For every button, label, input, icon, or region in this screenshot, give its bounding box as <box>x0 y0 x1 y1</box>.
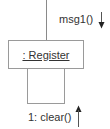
message-clear-label: 1: clear() <box>28 111 71 124</box>
message-msg1-label: msg1() <box>59 13 93 26</box>
register-object-label: : Register <box>8 49 84 62</box>
incoming-link-line <box>46 0 47 41</box>
arrow-up-icon <box>75 105 82 127</box>
self-link-box <box>27 69 65 104</box>
arrow-down-icon <box>98 12 105 29</box>
